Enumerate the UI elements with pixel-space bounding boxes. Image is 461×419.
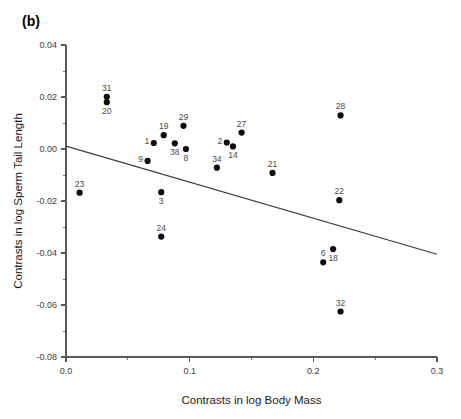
data-point [161, 132, 167, 138]
scatter-plot: 0.040.020.00-0.02-0.04-0.06-0.08 0.00.10… [0, 0, 461, 419]
y-axis-tick-labels: 0.040.020.00-0.02-0.04-0.06-0.08 [36, 40, 57, 362]
data-point-label: 6 [321, 248, 326, 258]
y-tick-label: 0.02 [39, 92, 57, 102]
data-point-label: 27 [237, 119, 247, 129]
x-axis-title: Contrasts in log Body Mass [182, 394, 322, 406]
data-point [224, 139, 230, 145]
y-axis-title: Contrasts in log Sperm Tail Length [12, 113, 24, 289]
data-point [151, 140, 157, 146]
figure-panel-b: (b) 0.040.020.00-0.02-0.04-0.06-0.08 0.0… [0, 0, 461, 419]
y-tick-label: -0.02 [36, 196, 57, 206]
data-point-label: 21 [268, 159, 278, 169]
data-point-label: 22 [335, 186, 345, 196]
data-point-label: 18 [328, 253, 338, 263]
data-point-label: 9 [138, 154, 143, 164]
x-tick-label: 0.2 [307, 366, 320, 376]
y-tick-label: -0.08 [36, 352, 57, 362]
y-tick-label: 0.04 [39, 40, 57, 50]
data-point [320, 259, 326, 265]
data-point-label: 23 [75, 179, 85, 189]
y-tick-label: -0.04 [36, 248, 57, 258]
data-point-label: 32 [336, 298, 346, 308]
data-point [183, 146, 189, 152]
data-point-label: 1 [144, 136, 149, 146]
data-point-label: 28 [336, 101, 346, 111]
y-tick-label: -0.06 [36, 300, 57, 310]
data-point [336, 197, 342, 203]
data-point-label: 3 [159, 196, 164, 206]
data-point [269, 170, 275, 176]
x-tick-label: 0.0 [60, 366, 73, 376]
data-point-label: 14 [228, 150, 238, 160]
data-point [158, 189, 164, 195]
x-axis-tick-labels: 0.00.10.20.3 [60, 366, 444, 376]
data-point-labels: 233120911932438298342142721282261832 [75, 83, 346, 308]
data-point-label: 38 [170, 147, 180, 157]
data-point [172, 140, 178, 146]
data-point [239, 130, 245, 136]
data-point [104, 94, 110, 100]
data-point-label: 19 [159, 121, 169, 131]
data-points [77, 94, 344, 315]
data-point-label: 34 [212, 154, 222, 164]
data-point [214, 165, 220, 171]
data-point [145, 158, 151, 164]
regression-line [66, 146, 437, 254]
x-tick-label: 0.3 [431, 366, 444, 376]
x-tick-label: 0.1 [183, 366, 196, 376]
data-point-label: 31 [102, 83, 112, 93]
data-point-label: 24 [156, 223, 166, 233]
data-point [180, 123, 186, 129]
data-point [77, 190, 83, 196]
data-point [158, 234, 164, 240]
data-point-label: 29 [179, 112, 189, 122]
data-point [230, 143, 236, 149]
y-axis-major-ticks [61, 45, 66, 357]
data-point [337, 308, 343, 314]
data-point-label: 8 [184, 153, 189, 163]
data-point [337, 112, 343, 118]
data-point-label: 20 [102, 106, 112, 116]
data-point [104, 99, 110, 105]
y-tick-label: 0.00 [39, 144, 57, 154]
data-point-label: 2 [217, 136, 222, 146]
data-point [330, 246, 336, 252]
